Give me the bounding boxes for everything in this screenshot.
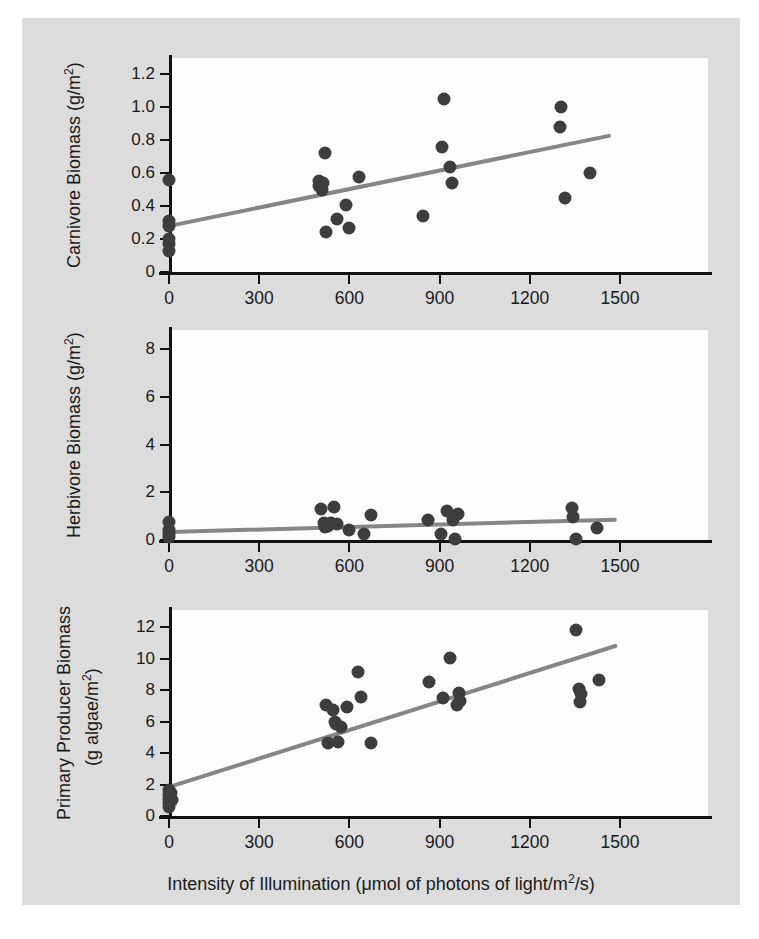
y-axis-tick-label: 10 <box>97 649 155 669</box>
x-axis-tick <box>529 275 531 284</box>
x-axis-tick-label: 900 <box>425 556 454 577</box>
data-point <box>365 508 378 521</box>
y-axis-tick-label: 0 <box>97 262 155 282</box>
y-axis-tick-label: 0.6 <box>97 163 155 183</box>
data-point <box>340 198 353 211</box>
x-axis-tick <box>439 275 441 284</box>
y-axis-title-herbivore: Herbivore Biomass (g/m2) <box>62 332 85 538</box>
x-axis-tick <box>168 275 170 284</box>
data-point <box>343 221 356 234</box>
x-axis-tick <box>529 819 531 828</box>
x-axis-line <box>159 272 712 275</box>
data-point <box>436 692 449 705</box>
y-axis-title-superscript: 2 <box>62 338 76 345</box>
y-axis-line <box>169 327 172 542</box>
data-point <box>163 531 176 544</box>
x-axis-tick <box>348 819 350 828</box>
x-axis-tick <box>258 819 260 828</box>
x-axis-tick-label: 1500 <box>601 288 640 309</box>
y-axis-tick <box>160 396 169 398</box>
plot-area <box>171 610 708 816</box>
y-axis-tick-label: 0 <box>97 806 155 826</box>
y-axis-title-tail: ) <box>82 668 102 674</box>
data-point <box>438 93 451 106</box>
x-axis-tick-label: 900 <box>425 832 454 853</box>
y-axis-tick <box>160 205 169 207</box>
x-axis-tick-label: 600 <box>335 288 364 309</box>
x-axis-tick-label: 600 <box>335 832 364 853</box>
y-axis-tick <box>160 491 169 493</box>
y-axis-tick-label: 0 <box>97 530 155 550</box>
y-axis-tick-label: 12 <box>97 617 155 637</box>
x-axis-tick <box>529 543 531 552</box>
x-axis-tick-label: 1500 <box>601 832 640 853</box>
data-point <box>357 528 370 541</box>
x-axis-tick <box>348 543 350 552</box>
y-axis-tick-label: 1.0 <box>97 97 155 117</box>
x-axis-tick-label: 0 <box>164 556 174 577</box>
data-point <box>355 691 368 704</box>
data-point <box>553 121 566 134</box>
y-axis-tick <box>160 348 169 350</box>
y-axis-tick-label: 2 <box>97 482 155 502</box>
data-point <box>314 502 327 515</box>
data-point <box>331 213 344 226</box>
y-axis-tick <box>160 689 169 691</box>
y-axis-tick <box>160 626 169 628</box>
y-axis-tick <box>160 444 169 446</box>
data-point <box>574 688 587 701</box>
y-axis-title-text: Carnivore Biomass (g/m <box>64 75 84 268</box>
data-point <box>352 666 365 679</box>
data-point <box>319 147 332 160</box>
x-axis-tick-label: 300 <box>245 288 274 309</box>
y-axis-tick <box>160 658 169 660</box>
data-point <box>445 177 458 190</box>
data-point <box>435 528 448 541</box>
y-axis-tick-label: 2 <box>97 775 155 795</box>
x-axis-tick <box>619 819 621 828</box>
data-point <box>423 675 436 688</box>
x-axis-title: Intensity of Illumination (μmol of photo… <box>22 872 740 895</box>
y-axis-title-text: Primary Producer Biomass <box>54 606 74 820</box>
y-axis-title-primary-producer-line1: Primary Producer Biomass <box>54 606 75 820</box>
y-axis-title-tail: ) <box>64 332 84 338</box>
data-point <box>327 500 340 513</box>
data-point <box>365 736 378 749</box>
data-point <box>163 173 176 186</box>
y-axis-tick <box>160 721 169 723</box>
data-point <box>353 170 366 183</box>
x-axis-title-text: Intensity of Illumination ( <box>167 874 361 894</box>
data-point <box>166 794 179 807</box>
data-point <box>591 522 604 535</box>
y-axis-tick <box>160 752 169 754</box>
x-axis-title-units: μmol of photons of light/m <box>361 874 567 894</box>
x-axis-tick <box>619 543 621 552</box>
x-axis-tick-label: 0 <box>164 288 174 309</box>
data-point <box>444 651 457 664</box>
plot-area <box>171 58 708 272</box>
y-axis-tick-label: 8 <box>97 339 155 359</box>
x-axis-tick-label: 900 <box>425 288 454 309</box>
data-point <box>421 513 434 526</box>
y-axis-tick <box>160 139 169 141</box>
data-point <box>583 167 596 180</box>
y-axis-tick-label: 6 <box>97 387 155 407</box>
data-point <box>555 101 568 114</box>
data-point <box>343 524 356 537</box>
plot-area <box>171 330 708 540</box>
data-point <box>320 226 333 239</box>
x-axis-tick <box>258 543 260 552</box>
data-point <box>570 624 583 637</box>
data-point <box>559 191 572 204</box>
x-axis-tick <box>168 543 170 552</box>
x-axis-tick-label: 1200 <box>510 832 549 853</box>
data-point <box>567 511 580 524</box>
x-axis-tick <box>439 543 441 552</box>
y-axis-tick-label: 4 <box>97 743 155 763</box>
y-axis-title-carnivore: Carnivore Biomass (g/m2) <box>62 62 85 268</box>
x-axis-title-tail: /s) <box>575 874 595 894</box>
x-axis-tick-label: 600 <box>335 556 364 577</box>
x-axis-tick-label: 1500 <box>601 556 640 577</box>
data-point <box>331 736 344 749</box>
y-axis-tick-label: 8 <box>97 680 155 700</box>
